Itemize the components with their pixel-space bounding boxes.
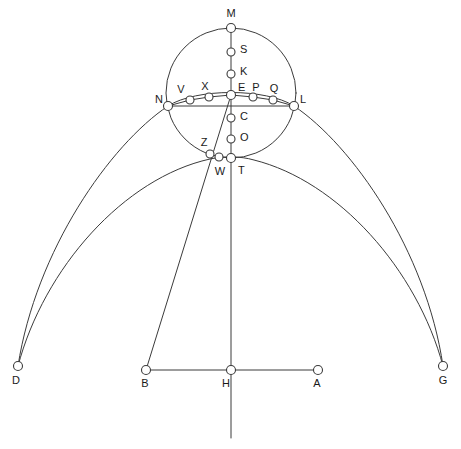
point-label-G: G [439, 374, 448, 386]
point-Z[interactable] [206, 150, 214, 158]
point-Q[interactable] [269, 96, 277, 104]
point-label-E: E [238, 81, 245, 93]
point-label-T: T [238, 164, 245, 176]
point-label-X: X [201, 80, 209, 92]
point-G[interactable] [439, 362, 448, 371]
point-label-L: L [300, 93, 306, 105]
point-S[interactable] [227, 48, 235, 56]
point-label-C: C [240, 110, 248, 122]
point-C[interactable] [227, 114, 235, 122]
point-H[interactable] [227, 366, 236, 375]
point-T[interactable] [227, 154, 236, 163]
point-W[interactable] [215, 153, 223, 161]
chord-E-P-Q-L [231, 95, 294, 106]
point-B[interactable] [142, 366, 151, 375]
point-label-N: N [155, 93, 163, 105]
point-O[interactable] [227, 135, 235, 143]
point-label-D: D [12, 374, 20, 386]
point-A[interactable] [314, 366, 323, 375]
point-L[interactable] [290, 102, 299, 111]
point-label-B: B [141, 377, 148, 389]
point-N[interactable] [164, 102, 173, 111]
oblique-line-E-Z-B [146, 95, 231, 370]
point-label-K: K [240, 65, 248, 77]
point-label-S: S [240, 43, 247, 55]
point-label-P: P [252, 81, 259, 93]
point-D[interactable] [14, 362, 23, 371]
point-M[interactable] [227, 24, 236, 33]
point-label-V: V [177, 83, 185, 95]
point-label-A: A [313, 377, 321, 389]
point-E[interactable] [227, 91, 236, 100]
geometry-diagram: MSKECOTWZNVXPQLDBHAG [0, 0, 461, 449]
labels-layer: MSKECOTWZNVXPQLDBHAG [12, 7, 447, 389]
geometry-canvas: MSKECOTWZNVXPQLDBHAG [0, 0, 461, 449]
point-label-Q: Q [270, 82, 279, 94]
point-X[interactable] [205, 93, 213, 101]
point-P[interactable] [249, 93, 257, 101]
chord-N-V-X-E [168, 95, 231, 106]
point-label-O: O [240, 131, 249, 143]
segments-layer [146, 28, 318, 438]
point-label-H: H [222, 377, 230, 389]
point-V[interactable] [186, 96, 194, 104]
point-label-M: M [226, 7, 235, 19]
point-label-Z: Z [201, 136, 208, 148]
point-label-W: W [215, 165, 226, 177]
point-K[interactable] [227, 70, 235, 78]
